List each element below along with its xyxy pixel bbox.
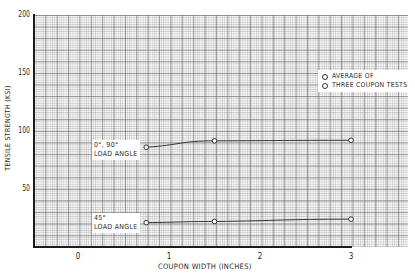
series-label-45-line2: LOAD ANGLE — [94, 223, 138, 232]
data-point-marker-icon — [349, 138, 354, 143]
series-label-0-90-line2: LOAD ANGLE — [94, 150, 138, 159]
series-label-0-90-line1: 0°, 90° — [94, 141, 138, 150]
series-line-0 — [146, 140, 351, 147]
legend-row-1: AVERAGE OF — [322, 72, 407, 81]
data-point-marker-icon — [144, 220, 149, 225]
data-point-marker-icon — [212, 219, 217, 224]
open-circle-marker-icon — [322, 74, 328, 80]
tensile-strength-chart: 200 150 100 50 0 1 2 3 COUPON WIDTH (INC… — [0, 0, 415, 275]
legend-row-2: THREE COUPON TESTS — [322, 81, 407, 90]
series-label-0-90: 0°, 90° LOAD ANGLE — [92, 140, 140, 160]
series-label-45: 45° LOAD ANGLE — [92, 213, 140, 233]
data-series-layer — [0, 0, 415, 275]
data-point-marker-icon — [144, 145, 149, 150]
series-label-45-line1: 45° — [94, 214, 138, 223]
data-point-marker-icon — [349, 217, 354, 222]
data-point-marker-icon — [212, 139, 217, 144]
legend: AVERAGE OF THREE COUPON TESTS — [318, 70, 411, 92]
open-circle-marker-icon — [322, 83, 328, 89]
legend-text-2: THREE COUPON TESTS — [332, 81, 407, 90]
series-line-1 — [146, 219, 351, 222]
legend-text-1: AVERAGE OF — [332, 72, 374, 81]
